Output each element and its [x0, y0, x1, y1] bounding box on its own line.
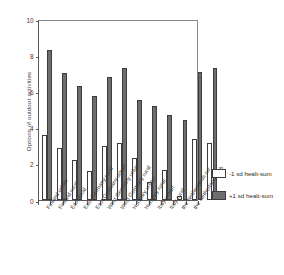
bar-low — [177, 196, 182, 200]
bar-group — [85, 21, 100, 200]
bar-high — [62, 73, 67, 200]
legend-label-low: -1 sd healt-sum — [229, 170, 272, 177]
y-tick-label: 0 — [30, 198, 34, 205]
x-tick-mark — [38, 201, 39, 205]
x-tick-mark — [161, 201, 162, 205]
x-axis-ticks — [38, 201, 198, 205]
y-tick-label: 4 — [30, 125, 34, 132]
bar-high — [92, 96, 97, 200]
legend-item-high: +1 sd healt-sum — [212, 190, 273, 201]
x-tick-mark — [100, 201, 101, 205]
bar-group — [70, 21, 85, 200]
x-tick-mark — [136, 201, 137, 205]
y-tick-label: 2 — [30, 161, 34, 168]
bar-low — [72, 160, 77, 200]
bar-high — [183, 120, 188, 200]
x-tick-mark — [87, 201, 88, 205]
bar-low — [102, 146, 107, 200]
x-tick-mark — [63, 201, 64, 205]
bar-high — [47, 50, 52, 200]
bar-low — [42, 135, 47, 200]
x-tick-mark — [198, 201, 199, 205]
bar-chart-figure: Options of outdoor activities 0246810 Fi… — [0, 0, 284, 275]
y-tick-label: 10 — [26, 17, 33, 24]
bar-high — [107, 77, 112, 200]
bar-low — [192, 139, 197, 200]
bar-high — [152, 106, 157, 200]
bar-low — [162, 170, 167, 200]
bar-low — [132, 158, 137, 200]
bar-high — [137, 100, 142, 200]
y-tick-mark — [36, 21, 40, 22]
bar-group — [176, 21, 191, 200]
bar-low — [117, 143, 122, 200]
legend-item-low: -1 sd healt-sum — [212, 168, 273, 179]
bar-group — [146, 21, 161, 200]
y-tick-mark — [36, 57, 40, 58]
bar-high — [77, 86, 82, 200]
y-tick-mark — [36, 129, 40, 130]
bar-series-container — [40, 21, 197, 200]
bar-group — [55, 21, 70, 200]
x-tick-mark — [75, 201, 76, 205]
bar-group — [161, 21, 176, 200]
bar-high — [167, 115, 172, 200]
bar-group — [115, 21, 130, 200]
x-tick-mark — [149, 201, 150, 205]
y-tick-mark — [36, 165, 40, 166]
bar-group — [40, 21, 55, 200]
bar-low — [147, 182, 152, 200]
plot-area: 0246810 — [38, 20, 198, 201]
x-tick-mark — [173, 201, 174, 205]
x-tick-mark — [124, 201, 125, 205]
legend-swatch-low-icon — [212, 169, 226, 178]
chart-legend: -1 sd healt-sum +1 sd healt-sum — [212, 168, 273, 212]
bar-group — [100, 21, 115, 200]
bar-high — [122, 68, 127, 200]
bar-group — [130, 21, 145, 200]
bar-low — [87, 171, 92, 200]
x-tick-mark — [50, 201, 51, 205]
bar-high — [198, 72, 203, 200]
bar-low — [57, 148, 62, 200]
legend-swatch-high-icon — [212, 191, 226, 200]
bar-group — [191, 21, 206, 200]
legend-label-high: +1 sd healt-sum — [229, 192, 273, 199]
y-tick-label: 8 — [30, 53, 34, 60]
y-tick-mark — [36, 93, 40, 94]
x-tick-mark — [112, 201, 113, 205]
x-tick-mark — [186, 201, 187, 205]
y-tick-label: 6 — [30, 89, 34, 96]
